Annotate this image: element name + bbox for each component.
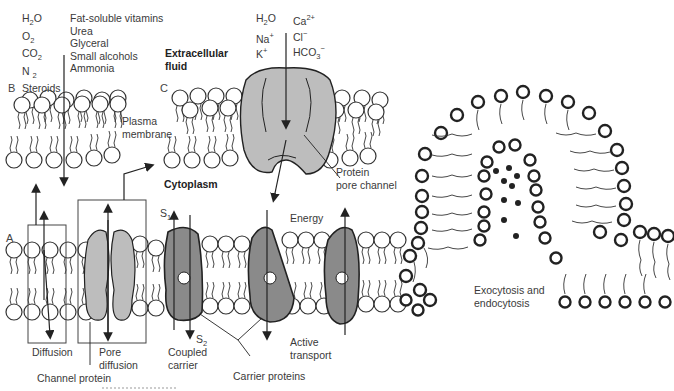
active-transport-label: Active transport <box>290 336 331 361</box>
vesicle-contents <box>493 165 521 239</box>
ion-list-left: H2O Na+ K+ <box>256 12 276 61</box>
exocytosis-endocytosis-label: Exocytosis and endocytosis <box>474 284 545 309</box>
panel-letter-b: B <box>8 82 15 94</box>
panel-letter-c: C <box>160 82 168 94</box>
molecule-list-right: Fat-soluble vitamins Urea Glyceral Small… <box>70 12 163 75</box>
panel-letter-a: A <box>6 232 13 244</box>
diffusion-label: Diffusion <box>32 346 73 359</box>
carrier-proteins-label: Carrier proteins <box>233 370 305 383</box>
extracellular-fluid-label: Extracellular fluid <box>165 47 228 72</box>
ion-list-right: Ca2+ Cl− HCO3− <box>293 12 325 64</box>
vesicle-tails <box>413 100 670 294</box>
channel-protein-label: Channel protein <box>37 372 111 385</box>
molecule-list-left: H2O O2 CO2 N 2 Steroids <box>22 12 61 95</box>
pore-diffusion-label: Pore diffusion <box>99 346 138 371</box>
protein-pore-channel-label: Protein pore channel <box>336 166 397 191</box>
plasma-membrane-label: Plasma membrane <box>122 115 172 140</box>
energy-label: Energy <box>290 212 323 225</box>
coupled-carrier-label: Coupled carrier <box>168 346 207 371</box>
s1-label: S1 <box>160 207 171 225</box>
membrane-transport-diagram: B C A H2O O2 CO2 N 2 Steroids Fat-solubl… <box>0 0 674 391</box>
exocytosis-vesicle <box>400 86 674 316</box>
cytoplasm-label: Cytoplasm <box>164 178 218 191</box>
